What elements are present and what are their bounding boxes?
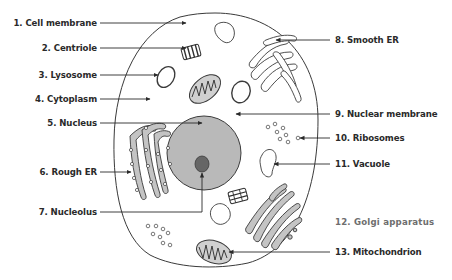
label-nucleus: 5. Nucleus [47,118,97,128]
label-ribosomes: 10. Ribosomes [335,133,404,143]
nucleolus [195,156,209,172]
label-nucleolus: 7. Nucleolus [39,207,97,217]
label-smooth-er: 8. Smooth ER [335,35,399,45]
label-vacuole: 11. Vacuole [335,159,390,169]
cell-diagram: 1. Cell membrane 2. Centriole 3. Lysosom… [0,0,452,280]
label-golgi-apparatus: 12. Golgi apparatus [335,217,434,227]
label-cell-membrane: 1. Cell membrane [13,18,97,28]
label-lysosome: 3. Lysosome [39,70,97,80]
label-centriole: 2. Centriole [42,43,97,53]
label-cytoplasm: 4. Cytoplasm [35,94,97,104]
label-nuclear-membrane: 9. Nuclear membrane [335,109,437,119]
label-mitochondrion: 13. Mitochondrion [335,247,422,257]
nucleus [167,116,241,190]
label-rough-er: 6. Rough ER [39,167,97,177]
vacuole-bottom [210,204,230,225]
